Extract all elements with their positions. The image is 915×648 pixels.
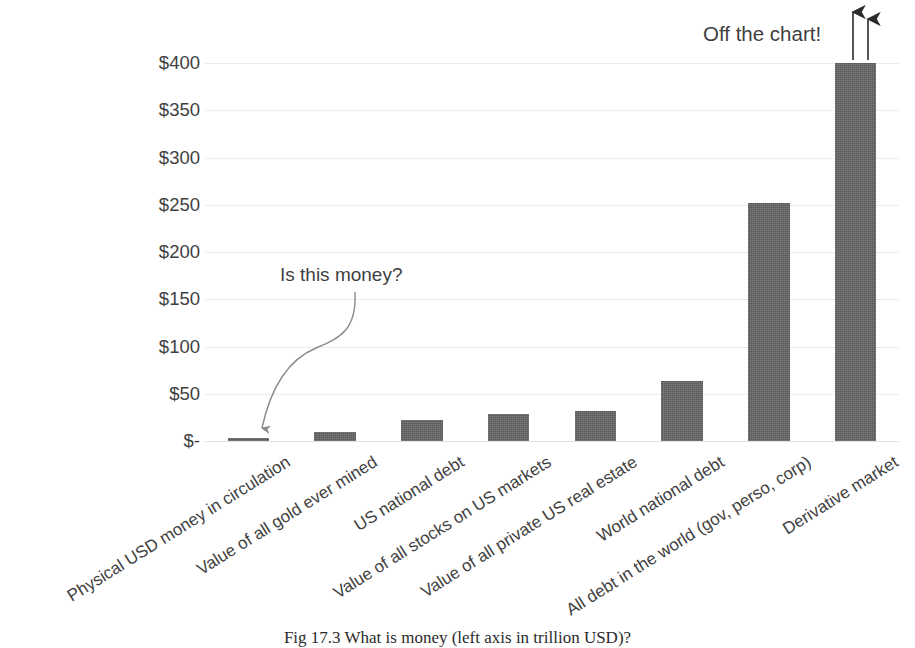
gridline — [205, 158, 899, 159]
bar — [661, 381, 703, 441]
gridline — [205, 205, 899, 206]
gridline — [205, 299, 899, 300]
gridline — [205, 110, 899, 111]
x-axis: Physical USD money in circulationValue o… — [0, 441, 915, 641]
bar — [401, 420, 443, 441]
gridline — [205, 63, 899, 64]
annotation-off-the-chart: Off the chart! — [703, 24, 821, 45]
gridline — [205, 394, 899, 395]
y-axis-tick-label: $300 — [120, 148, 200, 167]
bar — [835, 63, 877, 441]
y-axis-tick-label: $100 — [120, 337, 200, 356]
gridline — [205, 252, 899, 253]
bar — [488, 414, 530, 441]
y-axis-tick-label: $250 — [120, 196, 200, 215]
y-axis-tick-label: $350 — [120, 101, 200, 120]
y-axis-tick-label: $400 — [120, 54, 200, 73]
y-axis-tick-label: $150 — [120, 290, 200, 309]
y-axis-tick-label: $200 — [120, 243, 200, 262]
figure-caption: Fig 17.3 What is money (left axis in tri… — [0, 628, 915, 648]
y-axis-tick-label: $50 — [120, 385, 200, 404]
plot-area — [205, 63, 899, 441]
bar — [748, 203, 790, 441]
bar — [314, 432, 356, 441]
gridline — [205, 347, 899, 348]
annotation-is-this-money: Is this money? — [280, 265, 403, 284]
bar — [575, 411, 617, 441]
chart-figure: $400$350$300$250$200$150$100$50$- Physic… — [0, 0, 915, 648]
